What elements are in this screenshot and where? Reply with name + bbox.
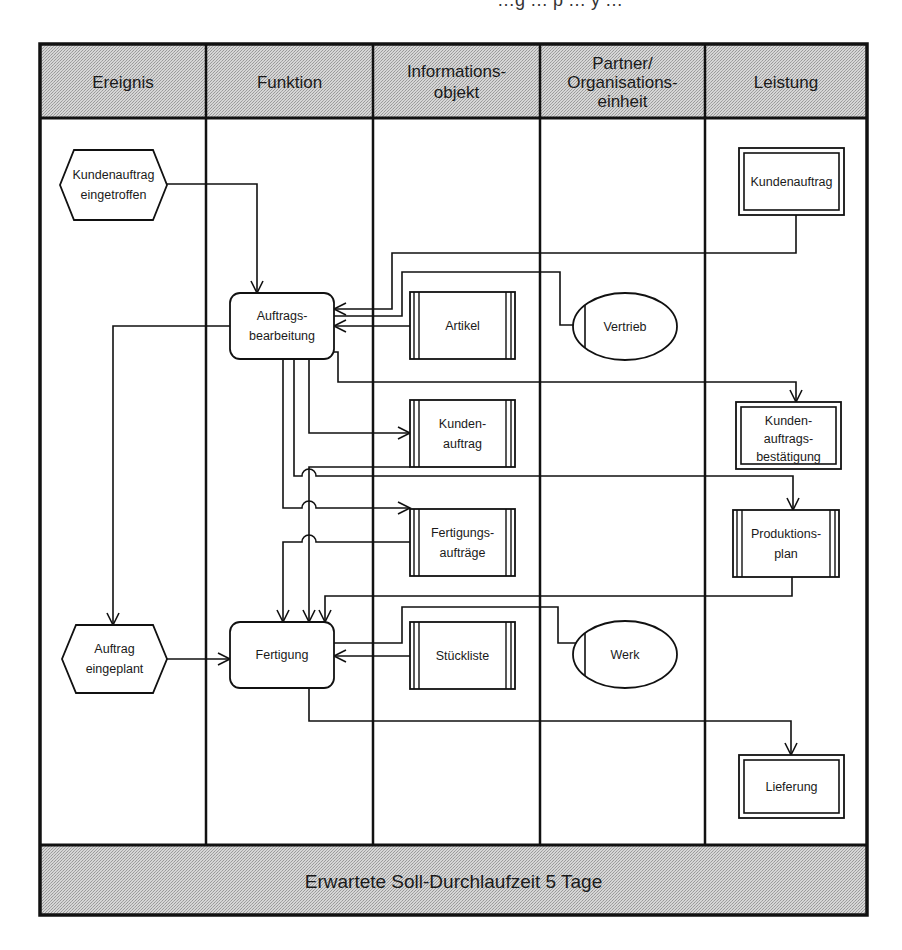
connector-e15[interactable] bbox=[167, 653, 230, 665]
node-label: Kunden- bbox=[439, 417, 486, 431]
node-org-werk[interactable]: Werk bbox=[573, 621, 677, 688]
node-label: Kundenauftrag bbox=[750, 175, 832, 189]
column-header-label: Funktion bbox=[257, 73, 322, 92]
connector-line bbox=[334, 352, 796, 402]
connector-line bbox=[113, 326, 230, 625]
node-label: aufträge bbox=[440, 546, 486, 560]
node-label: plan bbox=[774, 547, 798, 561]
node-fn-auftragsbearbeitung[interactable]: Auftrags-bearbeitung bbox=[230, 293, 334, 359]
connector-e1[interactable] bbox=[167, 184, 263, 293]
node-label: auftrags- bbox=[764, 432, 813, 446]
node-org-vertrieb[interactable]: Vertrieb bbox=[573, 293, 677, 360]
column-header-ereignis: Ereignis bbox=[92, 73, 153, 92]
node-ls-produktionsplan[interactable]: Produktions-plan bbox=[733, 510, 839, 577]
footer-label: Erwartete Soll-Durchlaufzeit 5 Tage bbox=[305, 871, 602, 892]
node-label: Vertrieb bbox=[603, 320, 646, 334]
node-fn-fertigung[interactable]: Fertigung bbox=[230, 622, 334, 688]
node-label: Auftrag bbox=[94, 642, 134, 656]
process-swimlane-diagram: …g … p … y … EreignisFunktionInformation… bbox=[0, 0, 902, 950]
node-ls-kundenauftrag[interactable]: Kundenauftrag bbox=[739, 148, 844, 215]
header-band bbox=[40, 44, 867, 118]
node-label: bestätigung bbox=[756, 450, 821, 464]
connector-line bbox=[309, 359, 410, 433]
connector-e10[interactable] bbox=[277, 535, 410, 622]
event-hexagon-shape bbox=[60, 150, 167, 220]
function-rounded-shape bbox=[230, 293, 334, 359]
node-label: Fertigungs- bbox=[431, 526, 494, 540]
cut-off-top-text: …g … p … y … bbox=[497, 0, 623, 10]
node-label: Kunden- bbox=[765, 414, 812, 428]
node-label: bearbeitung bbox=[249, 329, 315, 343]
node-label: Stückliste bbox=[436, 649, 490, 663]
node-label: Produktions- bbox=[751, 527, 821, 541]
cut-off-caption: …g … p … y … bbox=[497, 0, 623, 10]
connector-line bbox=[334, 215, 796, 309]
column-header-label: Leistung bbox=[754, 73, 818, 92]
node-ev-auftrag-eingeplant[interactable]: Auftrageingeplant bbox=[62, 625, 167, 693]
node-ls-lieferung[interactable]: Lieferung bbox=[739, 755, 844, 818]
node-label: Werk bbox=[611, 648, 641, 662]
node-label: Lieferung bbox=[765, 780, 817, 794]
connector-e12[interactable] bbox=[319, 577, 792, 622]
connector-e11[interactable] bbox=[303, 467, 410, 622]
connector-line bbox=[309, 467, 410, 622]
column-header-funktion: Funktion bbox=[257, 73, 322, 92]
connector-line bbox=[283, 535, 410, 622]
diagram-nodes: KundenauftrageingetroffenAuftrageingepla… bbox=[60, 148, 844, 818]
node-label: Fertigung bbox=[256, 648, 309, 662]
node-label: Artikel bbox=[445, 319, 480, 333]
info-object-shape bbox=[733, 510, 839, 577]
connector-e6[interactable] bbox=[334, 352, 802, 402]
column-header-label: Informations- bbox=[407, 62, 506, 81]
column-header-label: Partner/ bbox=[592, 54, 653, 73]
node-label: Auftrags- bbox=[257, 309, 308, 323]
column-header-leistung: Leistung bbox=[754, 73, 818, 92]
node-ls-kundenauftragsbestaetigung[interactable]: Kunden-auftrags-bestätigung bbox=[736, 402, 841, 469]
node-label: eingeplant bbox=[86, 662, 144, 676]
column-header-label: einheit bbox=[597, 92, 647, 111]
node-ev-kundenauftrag-eingetroffen[interactable]: Kundenauftrageingetroffen bbox=[60, 150, 167, 220]
connector-line bbox=[167, 184, 257, 293]
node-label: eingetroffen bbox=[81, 188, 147, 202]
connector-e7[interactable] bbox=[309, 359, 410, 439]
node-io-artikel[interactable]: Artikel bbox=[410, 292, 515, 359]
event-hexagon-shape bbox=[62, 625, 167, 693]
connector-e5[interactable] bbox=[107, 326, 230, 625]
column-header-label: objekt bbox=[434, 83, 480, 102]
connector-e16[interactable] bbox=[309, 688, 797, 755]
node-io-stueckliste[interactable]: Stückliste bbox=[410, 622, 515, 689]
diagram-canvas: …g … p … y … EreignisFunktionInformation… bbox=[0, 0, 902, 950]
column-header-label: Ereignis bbox=[92, 73, 153, 92]
node-label: Kundenauftrag bbox=[72, 168, 154, 182]
connector-line bbox=[309, 688, 791, 755]
info-object-shape bbox=[410, 400, 515, 467]
node-label: auftrag bbox=[443, 437, 482, 451]
node-io-fertigungsauftraege[interactable]: Fertigungs-aufträge bbox=[410, 509, 515, 576]
column-header-label: Organisations- bbox=[567, 73, 678, 92]
info-object-shape bbox=[410, 509, 515, 576]
node-io-kundenauftrag[interactable]: Kunden-auftrag bbox=[410, 400, 515, 467]
connector-e2[interactable] bbox=[334, 215, 796, 315]
